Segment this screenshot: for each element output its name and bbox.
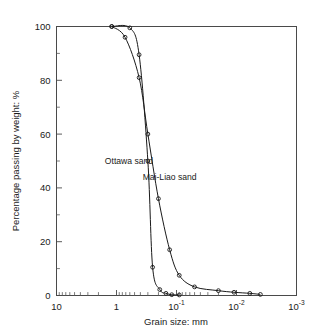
y-axis-title: Percentage passing by weight: % — [10, 90, 21, 231]
y-axis-minor-ticks — [57, 53, 60, 268]
x-tick-label: 10-1 — [168, 299, 185, 311]
x-tick-label: 1 — [114, 301, 119, 312]
y-axis-tick-labels: 020406080100 — [35, 21, 51, 301]
x-tick-label: 10 — [51, 301, 62, 312]
series-annotation-labels: Ottawa sandMai-Liao sand — [105, 156, 197, 182]
y-tick-label: 20 — [40, 236, 51, 247]
y-tick-label: 0 — [45, 290, 50, 301]
series-label-2: Mai-Liao sand — [143, 172, 197, 182]
x-axis-tick-labels: 10110-110-210-3 — [51, 299, 305, 311]
x-tick-label: 10-3 — [288, 299, 305, 311]
series-label-1: Ottawa sand — [105, 156, 153, 166]
plot-frame — [57, 27, 297, 296]
y-tick-label: 40 — [40, 182, 51, 193]
x-axis-minor-ticks — [59, 292, 218, 295]
grain-size-distribution-figure: 10110-110-210-3 020406080100 Ottawa sand… — [0, 0, 315, 332]
y-tick-label: 100 — [35, 21, 51, 32]
y-tick-label: 80 — [40, 75, 51, 86]
x-tick-label: 10-2 — [228, 299, 245, 311]
x-axis-title: Grain size: mm — [144, 316, 208, 327]
chart-canvas: 10110-110-210-3 020406080100 Ottawa sand… — [0, 0, 315, 332]
y-tick-label: 60 — [40, 129, 51, 140]
